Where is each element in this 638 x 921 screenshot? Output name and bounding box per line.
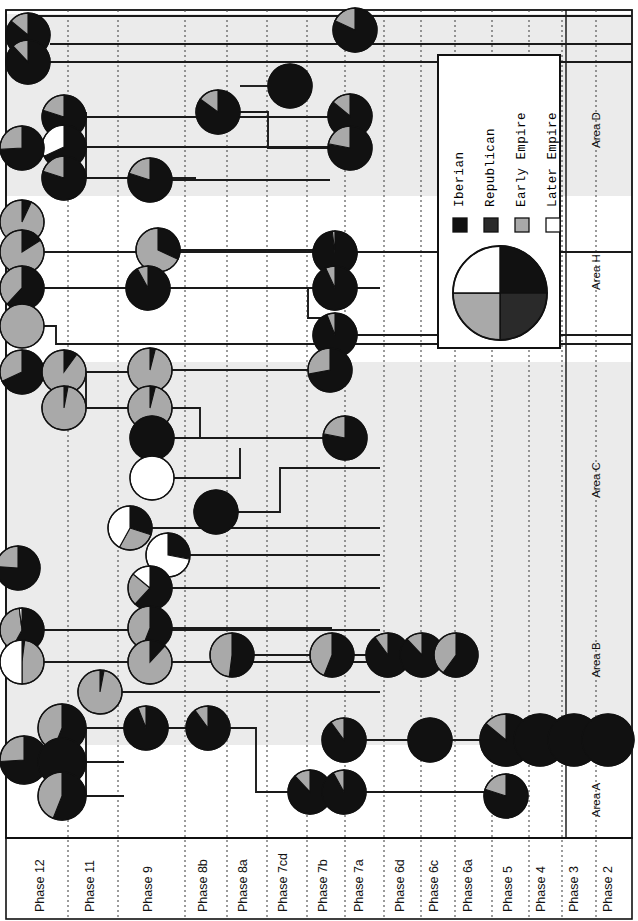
context-pie: [108, 506, 152, 550]
phase-label: Phase 5: [501, 866, 515, 912]
context-pie: [434, 633, 478, 677]
phase-label: Phase 8b: [196, 859, 210, 912]
area-label: Area B: [590, 642, 602, 677]
context-pie: [313, 266, 357, 310]
context-pie: [0, 640, 44, 684]
legend-swatch-republican: [484, 218, 498, 232]
context-pie: [136, 228, 180, 272]
phase-label: Phase 7b: [316, 859, 330, 912]
context-pie: [38, 772, 86, 820]
phase-label: Phase 6c: [427, 860, 441, 912]
context-pie: [484, 774, 528, 818]
legend: IberianRepublicanEarly EmpireLater Empir…: [438, 55, 560, 348]
phase-label: Phase 9: [141, 866, 155, 912]
legend-label-iberian: Iberian: [453, 152, 467, 207]
area-label: Area C: [590, 462, 602, 498]
context-pie: [130, 416, 174, 460]
context-pie: [0, 304, 44, 348]
context-pie: [582, 714, 634, 766]
figure-root: IberianRepublicanEarly EmpireLater Empir…: [0, 0, 638, 921]
legend-swatch-iberian: [453, 218, 467, 232]
context-pie: [42, 386, 86, 430]
legend-swatch-early-empire: [515, 218, 529, 232]
phase-label: Phase 4: [534, 866, 548, 912]
context-pie: [322, 770, 366, 814]
legend-label-republican: Republican: [484, 128, 498, 207]
context-pie: [6, 40, 50, 84]
context-pie: [0, 546, 40, 590]
context-pie: [128, 640, 172, 684]
context-pie: [0, 350, 44, 394]
context-pie: [408, 718, 452, 762]
context-pie: [130, 456, 174, 500]
context-pie: [194, 490, 238, 534]
area-band: [6, 362, 632, 605]
phase-label: Phase 7cd: [276, 853, 290, 912]
context-pie: [0, 126, 44, 170]
phase-label: Phase 12: [33, 859, 47, 912]
context-pie: [210, 633, 254, 677]
context-pie: [124, 706, 168, 750]
context-pie: [323, 416, 367, 460]
context-pie: [42, 156, 86, 200]
stratigraphic-pie-diagram: IberianRepublicanEarly EmpireLater Empir…: [0, 0, 638, 921]
phase-label: Phase 3: [567, 866, 581, 912]
context-pie: [310, 633, 354, 677]
area-label: Area H: [590, 254, 602, 290]
context-pie: [322, 718, 366, 762]
context-pie: [186, 706, 230, 750]
phase-label: Phase 2: [601, 866, 615, 912]
legend-swatch-later-empire: [546, 218, 560, 232]
phase-label: Phase 6d: [393, 859, 407, 912]
context-pie: [128, 566, 172, 610]
area-label: Area A: [590, 782, 602, 817]
legend-label-early-empire: Early Empire: [515, 112, 529, 207]
context-pie: [328, 126, 372, 170]
legend-label-later-empire: Later Empire: [546, 112, 560, 207]
phase-label: Phase 11: [83, 860, 97, 912]
context-pie: [78, 670, 122, 714]
context-pie: [126, 266, 170, 310]
phase-label: Phase 7a: [352, 859, 366, 912]
context-pie: [128, 158, 172, 202]
context-pie: [268, 64, 312, 108]
context-pie: [196, 90, 240, 134]
context-pie: [308, 348, 352, 392]
area-label: Area D: [590, 112, 602, 148]
context-pie: [333, 8, 377, 52]
phase-label: Phase 6a: [461, 859, 475, 912]
phase-label: Phase 8a: [236, 859, 250, 912]
